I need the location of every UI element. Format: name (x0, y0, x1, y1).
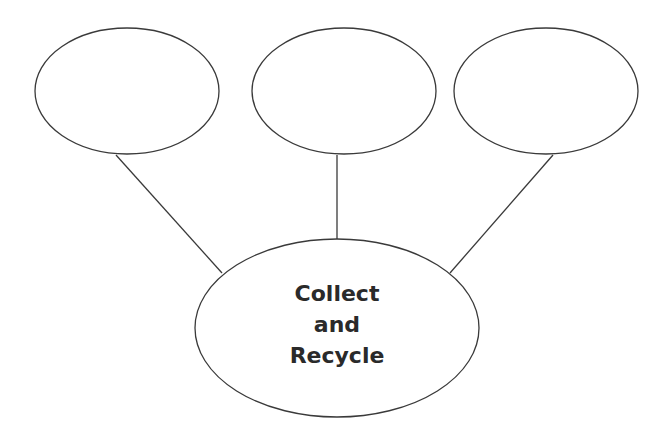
center-node-label: Collect and Recycle (237, 278, 437, 371)
outer-node-right (454, 28, 638, 154)
outer-node-left (35, 28, 219, 154)
center-label-line-3: Recycle (237, 340, 437, 371)
connector-right (450, 155, 553, 273)
connector-left (116, 155, 222, 273)
center-label-line-2: and (237, 309, 437, 340)
center-label-line-1: Collect (237, 278, 437, 309)
web-diagram (0, 0, 670, 439)
outer-node-middle (252, 28, 436, 154)
